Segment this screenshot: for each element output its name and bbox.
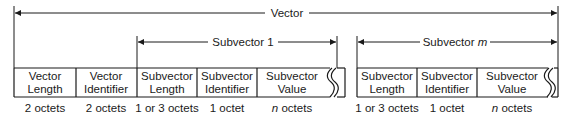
svg-text:Length: Length (149, 83, 184, 95)
svg-text:Value: Value (278, 83, 307, 95)
svg-text:Length: Length (27, 83, 62, 95)
svg-text:Subvector: Subvector (266, 70, 318, 82)
subvector-m-span-arrow: Subvector m (357, 36, 557, 68)
svg-text:Vector: Vector (90, 70, 123, 82)
field-vector-length: Vector Length 2 octets (25, 70, 66, 114)
svg-text:Subvector: Subvector (486, 70, 538, 82)
size-label: n octets (492, 102, 533, 114)
svg-text:Subvector: Subvector (421, 70, 473, 82)
size-label: 2 octets (25, 102, 66, 114)
svg-text:Identifier: Identifier (84, 83, 128, 95)
subvector-m-label: Subvector m (423, 36, 488, 48)
vector-label: Vector (271, 7, 304, 19)
svg-text:Subvector: Subvector (361, 70, 413, 82)
field-subvector-1-length: Subvector Length 1 or 3 octets (135, 70, 199, 114)
size-label: n octets (272, 102, 313, 114)
svg-text:Length: Length (369, 83, 404, 95)
svg-text:Value: Value (498, 83, 527, 95)
svg-text:Identifier: Identifier (425, 83, 469, 95)
size-label: 1 octet (210, 102, 245, 114)
size-label: 1 or 3 octets (135, 102, 199, 114)
size-label: 2 octets (86, 102, 127, 114)
svg-text:Vector: Vector (29, 70, 62, 82)
field-subvector-1-identifier: Subvector Identifier 1 octet (201, 70, 253, 114)
size-label: 1 octet (430, 102, 465, 114)
size-label: 1 or 3 octets (355, 102, 419, 114)
vector-structure-diagram: Vector Subvector 1 Subvector m (0, 0, 572, 118)
subvector-1-label: Subvector 1 (212, 36, 273, 48)
subvector-1-span-arrow: Subvector 1 (137, 36, 337, 68)
field-subvector-1-value: Subvector Value n octets (266, 70, 318, 114)
field-vector-identifier: Vector Identifier 2 octets (84, 70, 128, 114)
field-subvector-m-identifier: Subvector Identifier 1 octet (421, 70, 473, 114)
svg-text:Subvector: Subvector (141, 70, 193, 82)
svg-text:Identifier: Identifier (205, 83, 249, 95)
svg-text:Subvector: Subvector (201, 70, 253, 82)
field-subvector-m-value: Subvector Value n octets (486, 70, 538, 114)
field-subvector-m-length: Subvector Length 1 or 3 octets (355, 70, 419, 114)
